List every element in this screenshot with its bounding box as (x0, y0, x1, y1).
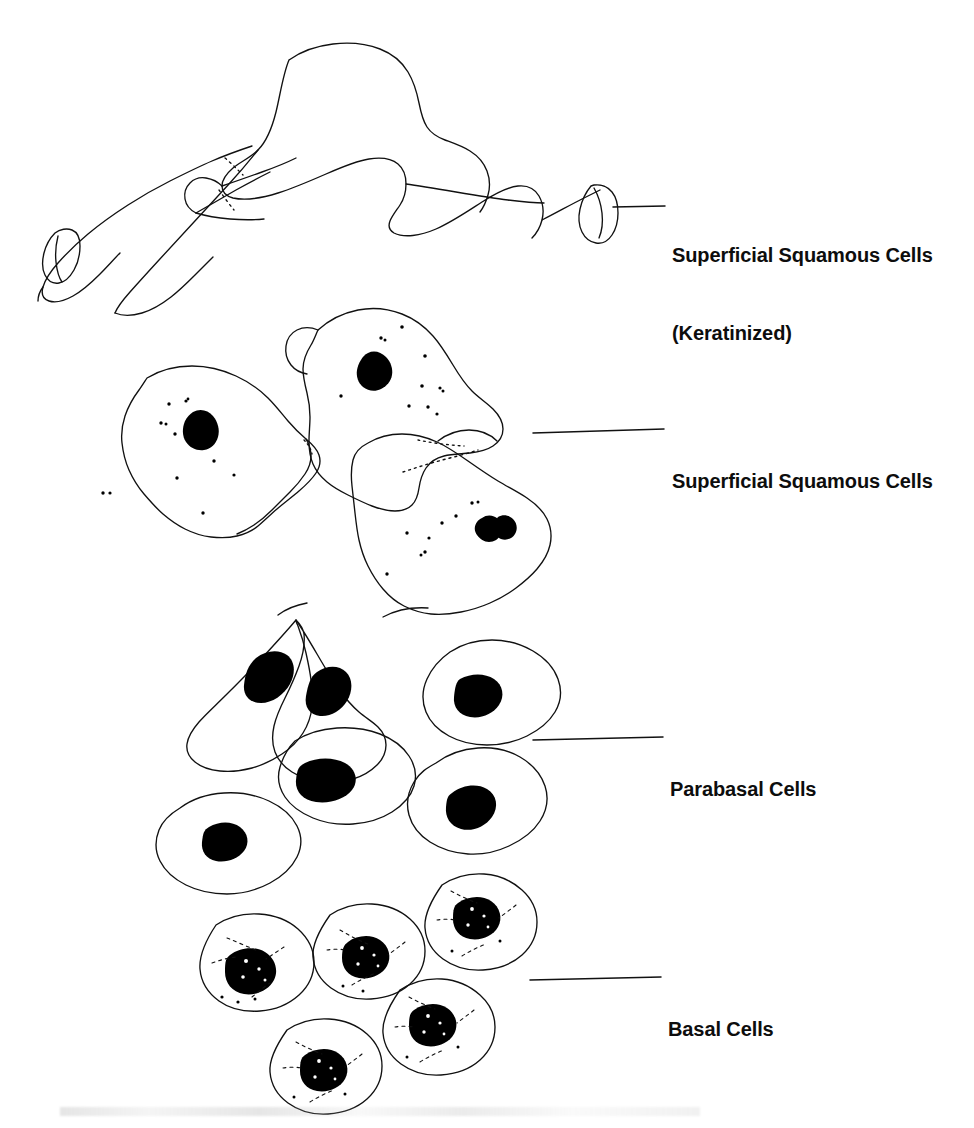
keratinized-squame-right-tail (542, 190, 600, 220)
label-line-primary: Basal Cells (668, 1016, 774, 1042)
cell-group-parabasal (156, 603, 560, 894)
keratinized-squame-left (42, 146, 252, 302)
basal-cell-3-granules (451, 940, 502, 953)
cell-illustration-canvas (0, 0, 974, 1128)
superficial-squame-lower-overlap (403, 450, 478, 472)
basal-cell-2-nucleus (342, 936, 389, 978)
superficial-squame-lower-notch (438, 430, 497, 441)
cell-group-superficial-squames (101, 309, 551, 615)
keratinized-squame-middle (185, 178, 222, 213)
superficial-squame-upper (303, 309, 503, 511)
keratinized-squame-right-fold (406, 184, 544, 203)
parabasal-cell-6-nucleus (202, 823, 248, 862)
leader-line-parabasal (533, 737, 663, 740)
basal-cell-1-granules (220, 995, 256, 1003)
superficial-squame-left (122, 366, 320, 538)
keratinized-squame-right-edge-curl (579, 185, 618, 243)
superficial-squame-upper-fold (286, 328, 318, 374)
keratinized-squame-right-curl-inner (594, 188, 602, 238)
parabasal-cell-4-nucleus (296, 759, 356, 803)
superficial-squame-upper-nucleus (357, 352, 393, 391)
label-line-primary: Parabasal Cells (670, 776, 816, 802)
keratinized-squame-left-inner (115, 150, 258, 313)
keratinized-squame-right (222, 43, 543, 238)
leader-lines (530, 206, 665, 980)
label-basal: Basal Cells (668, 964, 774, 1094)
superficial-squame-lower-granules (385, 501, 479, 576)
superficial-squame-left-granules (101, 398, 235, 515)
basal-cell-4-granules (293, 1093, 347, 1099)
label-superficial-squamous-keratinized: Superficial Squamous Cells (Keratinized) (672, 190, 933, 398)
keratinized-squame-left-lower-edge (115, 257, 213, 315)
label-line-secondary: (Keratinized) (672, 320, 933, 346)
basal-cell-5-granules (406, 1046, 460, 1059)
label-line-primary: Superficial Squamous Cells (672, 242, 933, 268)
figure-root: Superficial Squamous Cells (Keratinized)… (0, 0, 974, 1128)
basal-cell-2-granules (342, 985, 365, 993)
parabasal-upper-partial-arc-left (278, 603, 307, 615)
basal-cell-5-nucleus (409, 1004, 456, 1046)
superficial-squame-upper-overlap (418, 440, 464, 446)
leader-line-basal (530, 977, 661, 980)
superficial-squame-lower (351, 434, 551, 614)
label-superficial-squamous: Superficial Squamous Cells (672, 416, 933, 546)
leader-line-keratinized (613, 206, 665, 207)
keratinized-squame-center-fold (222, 158, 296, 186)
label-parabasal: Parabasal Cells (670, 724, 816, 854)
superficial-squame-left-fold-edge (237, 439, 311, 534)
cell-group-keratinized-squames (38, 43, 618, 315)
cell-group-basal (200, 874, 537, 1114)
superficial-squame-lower-nucleus (475, 515, 517, 542)
basal-cell-4-nucleus (300, 1049, 347, 1091)
label-line-primary: Superficial Squamous Cells (672, 468, 933, 494)
basal-cell-1-nucleus (225, 948, 276, 994)
keratinized-squame-middle-lower (196, 213, 264, 220)
parabasal-cell-5-nucleus (446, 786, 496, 830)
scan-artifact-smudge (60, 1107, 700, 1116)
leader-line-superficial (533, 429, 664, 433)
superficial-squame-left-nucleus (183, 410, 219, 450)
parabasal-cell-2-nucleus (306, 667, 352, 716)
parabasal-cell-3-nucleus (454, 675, 503, 718)
